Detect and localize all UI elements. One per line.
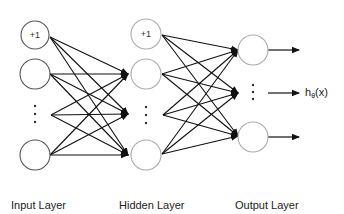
neural-network-diagram bbox=[0, 0, 344, 214]
hidden-node-1 bbox=[131, 59, 161, 89]
hidden-ellipsis bbox=[145, 106, 147, 124]
input-node-n bbox=[20, 140, 50, 170]
input-to-hidden-edges bbox=[50, 37, 128, 155]
input-ellipsis bbox=[34, 105, 36, 123]
hidden-layer-label: Hidden Layer bbox=[119, 199, 184, 211]
hidden-layer-nodes bbox=[131, 19, 161, 170]
output-arrows bbox=[268, 50, 299, 137]
output-function-label: hθ(x) bbox=[305, 86, 328, 99]
hidden-to-output-edges bbox=[162, 35, 238, 154]
output-node-n bbox=[238, 122, 268, 152]
input-node-1 bbox=[20, 59, 50, 89]
input-bias-label: +1 bbox=[30, 30, 40, 40]
output-node-1 bbox=[238, 35, 268, 65]
output-layer-label: Output Layer bbox=[235, 199, 299, 211]
output-ellipsis bbox=[252, 84, 254, 100]
input-layer-label: Input Layer bbox=[11, 199, 66, 211]
input-layer-nodes bbox=[20, 21, 50, 170]
hidden-node-n bbox=[131, 140, 161, 170]
output-layer-nodes bbox=[238, 35, 268, 152]
output-function-arg: (x) bbox=[315, 86, 328, 98]
hidden-bias-label: +1 bbox=[141, 29, 151, 39]
